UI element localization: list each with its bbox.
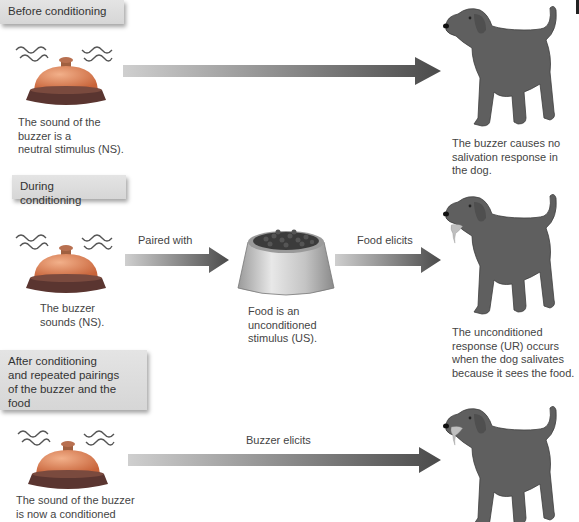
food-caption: Food is an unconditioned stimulus (US). [248,305,317,346]
caption-line: Food is an [248,305,317,319]
response-caption-before: The buzzer causes no salivation response… [452,137,560,178]
caption-line: The sound of the [18,116,124,130]
caption-line: is now a conditioned [16,508,135,522]
caption-line: The sound of the buzzer [16,494,135,508]
caption-line: unconditioned [248,319,317,333]
caption-line: The buzzer causes no [452,137,560,151]
arrow-label-paired-with: Paired with [138,234,192,246]
caption-line: stimulus (US). [248,332,317,346]
buzzer-bell-icon [6,40,126,110]
gradient-arrow-icon [123,57,441,85]
caption-line: the dog. [452,164,560,178]
stage-label-line: of the buzzer and the food [8,382,139,410]
caption-line: because it sees the food. [452,367,574,381]
buzzer-bell-icon [8,424,128,494]
buzzer-bell-icon [6,228,126,298]
food-bowl-icon [236,226,336,301]
stimulus-caption-during: The buzzer sounds (NS). [40,302,104,329]
caption-line: The buzzer [40,302,104,316]
arrow-label-buzzer-elicits: Buzzer elicits [246,434,311,446]
gradient-arrow-icon [128,447,441,473]
drool-icon [450,424,464,448]
stage-label-after-conditioning: After conditioning and repeated pairings… [0,350,147,410]
caption-line: sounds (NS). [40,316,104,330]
caption-line: The unconditioned [452,326,574,340]
dog-illustration-salivating [434,188,574,318]
stage-label-during-conditioning: During conditioning [12,175,126,199]
stimulus-caption-after: The sound of the buzzer is now a conditi… [16,494,135,521]
stage-label-line: and repeated pairings [8,368,139,382]
drool-icon [450,222,464,246]
gradient-arrow-icon [335,247,441,273]
caption-line: neutral stimulus (NS). [18,143,124,157]
caption-line: response (UR) occurs [452,340,574,354]
gradient-arrow-icon [125,247,229,273]
stage-label-text: Before conditioning [8,5,106,17]
caption-line: salivation response in [452,151,560,165]
arrow-label-food-elicits: Food elicits [357,234,413,246]
stimulus-caption-before: The sound of the buzzer is a neutral sti… [18,116,124,157]
stage-label-line: After conditioning [8,354,139,368]
dog-illustration [434,0,574,130]
dog-illustration-salivating [434,400,574,522]
stage-label-before-conditioning: Before conditioning [0,0,124,24]
stage-label-text: During conditioning [20,180,81,206]
caption-line: when the dog salivates [452,353,574,367]
response-caption-during: The unconditioned response (UR) occurs w… [452,326,574,380]
caption-line: buzzer is a [18,130,124,144]
